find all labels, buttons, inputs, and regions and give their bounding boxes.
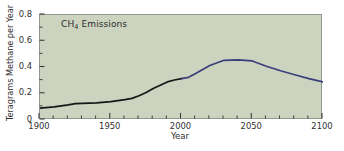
plot-lines: [40, 15, 323, 120]
series-line-projection: [182, 60, 324, 82]
y-axis-label: Teragrams Methane per Year: [5, 1, 17, 125]
x-tick-label: 2050: [231, 121, 271, 131]
plot-area: CH4 Emissions: [39, 14, 322, 119]
x-axis-label: Year: [160, 131, 200, 141]
series-line-historical: [40, 79, 182, 109]
chart-figure: Teragrams Methane per Year CH4 Emissions…: [0, 0, 344, 151]
x-tick-label: 1950: [90, 121, 130, 131]
x-tick-label: 1900: [19, 121, 59, 131]
x-tick-label: 2000: [161, 121, 201, 131]
x-tick-label: 2100: [302, 121, 342, 131]
